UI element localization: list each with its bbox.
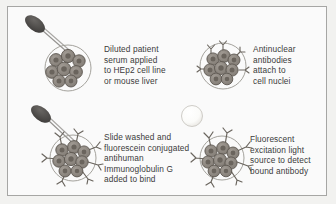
panel-1-caption: Diluted patient serum applied to HEp2 ce…	[104, 44, 166, 86]
panel-3-artwork	[26, 102, 112, 188]
caption-line: to HEp2 cell line	[104, 65, 166, 76]
caption-line: or mouse liver	[104, 76, 166, 87]
caption-line: Antinuclear	[253, 44, 296, 55]
caption-line: source to detect	[250, 155, 311, 166]
caption-line: Slide washed and	[104, 132, 189, 143]
caption-line: fluorescein conjugated	[104, 143, 189, 154]
caption-line: bound antibody	[250, 166, 311, 177]
caption-line: Immunoglobulin G	[104, 164, 189, 175]
light-source-icon	[182, 106, 203, 127]
caption-line: antihuman	[104, 153, 189, 164]
caption-line: Fluorescent	[250, 134, 311, 145]
caption-line: antibodies	[253, 55, 296, 66]
caption-line: attach to	[253, 65, 296, 76]
figure-container: Diluted patient serum applied to HEp2 ce…	[0, 0, 336, 204]
panel-3-caption: Slide washed and fluorescein conjugated …	[104, 132, 189, 185]
caption-line: Diluted patient	[104, 44, 166, 55]
panel-1-artwork	[18, 14, 104, 96]
caption-line: added to bind	[104, 174, 189, 185]
cell-cluster	[204, 50, 240, 85]
cell-cluster	[202, 142, 239, 177]
cell-cluster	[46, 49, 85, 87]
caption-line: serum applied	[104, 55, 166, 66]
caption-line: excitation light	[250, 145, 311, 156]
cell-cluster	[53, 141, 90, 177]
panel-2-caption: Antinuclear antibodies attach to cell nu…	[253, 44, 296, 86]
panel-2-artwork	[193, 36, 253, 94]
caption-line: cell nuclei	[253, 76, 296, 87]
panel-4-caption: Fluorescent excitation light source to d…	[250, 134, 311, 176]
